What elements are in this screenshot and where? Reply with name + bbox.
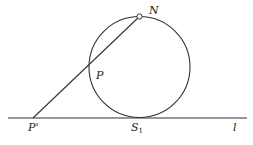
projection-line bbox=[33, 17, 140, 119]
diagram-canvas: N P P' S1 l bbox=[0, 0, 253, 145]
label-l: l bbox=[233, 121, 237, 134]
label-p-prime: P' bbox=[27, 121, 38, 134]
label-s1: S1 bbox=[131, 121, 143, 135]
label-p: P bbox=[95, 69, 104, 82]
label-n: N bbox=[148, 4, 159, 17]
sphere-circle bbox=[89, 17, 190, 118]
label-s-subscript: 1 bbox=[139, 127, 143, 135]
north-pole-point bbox=[137, 14, 142, 19]
